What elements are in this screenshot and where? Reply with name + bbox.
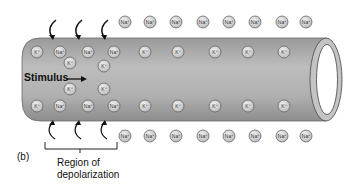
potassium-ion: K+ — [139, 46, 151, 58]
sodium-ion: Na+ — [54, 46, 66, 58]
sodium-ion: Na+ — [108, 46, 120, 58]
stimulus-label: Stimulus — [24, 71, 68, 83]
sodium-ion: Na+ — [144, 16, 156, 28]
na-influx-arrows-bottom — [49, 123, 107, 139]
region-label-line1: Region of — [57, 157, 100, 168]
sodium-ion: Na+ — [300, 16, 312, 28]
figure-label: (b) — [17, 151, 29, 162]
sodium-ion: Na+ — [223, 130, 235, 142]
na-influx-arrows-top — [50, 20, 108, 37]
potassium-ion: K+ — [98, 60, 110, 72]
sodium-ion: Na+ — [144, 130, 156, 142]
sodium-ion: Na+ — [276, 16, 288, 28]
sodium-ion: Na+ — [249, 130, 261, 142]
potassium-ion: K+ — [242, 46, 254, 58]
potassium-ion: K+ — [98, 83, 110, 95]
sodium-ion: Na+ — [119, 130, 131, 142]
sodium-ion: Na+ — [82, 46, 94, 58]
axon-diagram: Na+Na+Na+Na+Na+Na+Na+Na+Na+Na+Na+Na+Na+N… — [0, 0, 352, 190]
sodium-ion: Na+ — [197, 16, 209, 28]
potassium-ion: K+ — [31, 46, 43, 58]
sodium-ion: Na+ — [276, 130, 288, 142]
sodium-ion: Na+ — [108, 100, 120, 112]
potassium-ion: K+ — [172, 100, 184, 112]
region-bracket — [45, 142, 117, 153]
region-label-line2: depolarization — [57, 169, 119, 180]
sodium-ion: Na+ — [170, 130, 182, 142]
sodium-ion: Na+ — [197, 130, 209, 142]
axon-end-inner — [317, 45, 338, 115]
sodium-ion: Na+ — [170, 16, 182, 28]
sodium-ion: Na+ — [300, 130, 312, 142]
sodium-ion: Na+ — [119, 16, 131, 28]
potassium-ion: K+ — [209, 100, 221, 112]
potassium-ion: K+ — [172, 46, 184, 58]
sodium-ion: Na+ — [82, 100, 94, 112]
potassium-ion: K+ — [31, 100, 43, 112]
sodium-ion: Na+ — [223, 16, 235, 28]
potassium-ion: K+ — [64, 83, 76, 95]
potassium-ion: K+ — [242, 100, 254, 112]
potassium-ion: K+ — [209, 46, 221, 58]
sodium-ion: Na+ — [54, 100, 66, 112]
potassium-ion: K+ — [139, 100, 151, 112]
sodium-ion: Na+ — [249, 16, 261, 28]
potassium-ion: K+ — [278, 100, 290, 112]
potassium-ion: K+ — [64, 57, 76, 69]
potassium-ion: K+ — [278, 46, 290, 58]
